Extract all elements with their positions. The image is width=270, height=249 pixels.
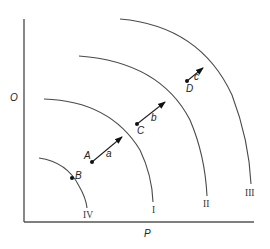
curve-iv — [39, 158, 87, 208]
point-b — [70, 176, 74, 180]
curve-label-ii: II — [203, 199, 209, 209]
production-possibility-diagram: O P IV I II III a b c A B C D — [0, 0, 270, 249]
arrow-label-b: b — [151, 112, 157, 123]
x-axis-label: P — [144, 228, 151, 239]
arrow-label-c: c — [194, 71, 199, 82]
point-label-a: A — [83, 150, 91, 161]
arrow-label-a: a — [106, 148, 112, 159]
curve-label-iv: IV — [83, 210, 93, 220]
point-label-c: C — [137, 125, 145, 136]
curve-iii — [120, 19, 251, 184]
curve-label-iii: III — [245, 188, 255, 198]
point-label-b: B — [75, 170, 82, 181]
curve-i — [44, 99, 153, 202]
curve-label-i: I — [152, 205, 155, 215]
y-axis-label: O — [10, 92, 18, 103]
point-label-d: D — [186, 83, 193, 94]
